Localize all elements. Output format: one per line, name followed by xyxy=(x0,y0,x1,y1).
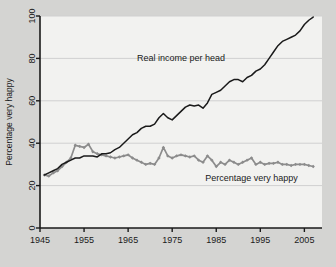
y-tick-label: 60 xyxy=(27,96,37,106)
y-tick-label: 0 xyxy=(27,225,37,230)
x-tick-label: 1975 xyxy=(162,235,182,245)
x-tick-label: 1995 xyxy=(250,235,270,245)
chart-figure: 020406080100 194519551965197519851995200… xyxy=(0,0,336,267)
x-tick-label: 1955 xyxy=(74,235,94,245)
y-axis-label-text: Percentage very happy xyxy=(4,78,14,166)
y-tick-label: 20 xyxy=(27,181,37,191)
x-tick-label: 1965 xyxy=(118,235,138,245)
series-annotation: Percentage very happy xyxy=(205,173,298,183)
plot-background xyxy=(40,16,322,228)
chart-svg: 020406080100 194519551965197519851995200… xyxy=(0,0,336,267)
x-tick-label: 1945 xyxy=(30,235,50,245)
y-tick-label: 80 xyxy=(27,53,37,63)
y-tick-label: 100 xyxy=(27,8,37,23)
series-annotation: Real income per head xyxy=(137,53,225,63)
y-axis-label: Percentage very happy xyxy=(4,78,14,166)
x-tick-label: 2005 xyxy=(294,235,314,245)
y-tick-label: 40 xyxy=(27,138,37,148)
x-tick-label: 1985 xyxy=(206,235,226,245)
